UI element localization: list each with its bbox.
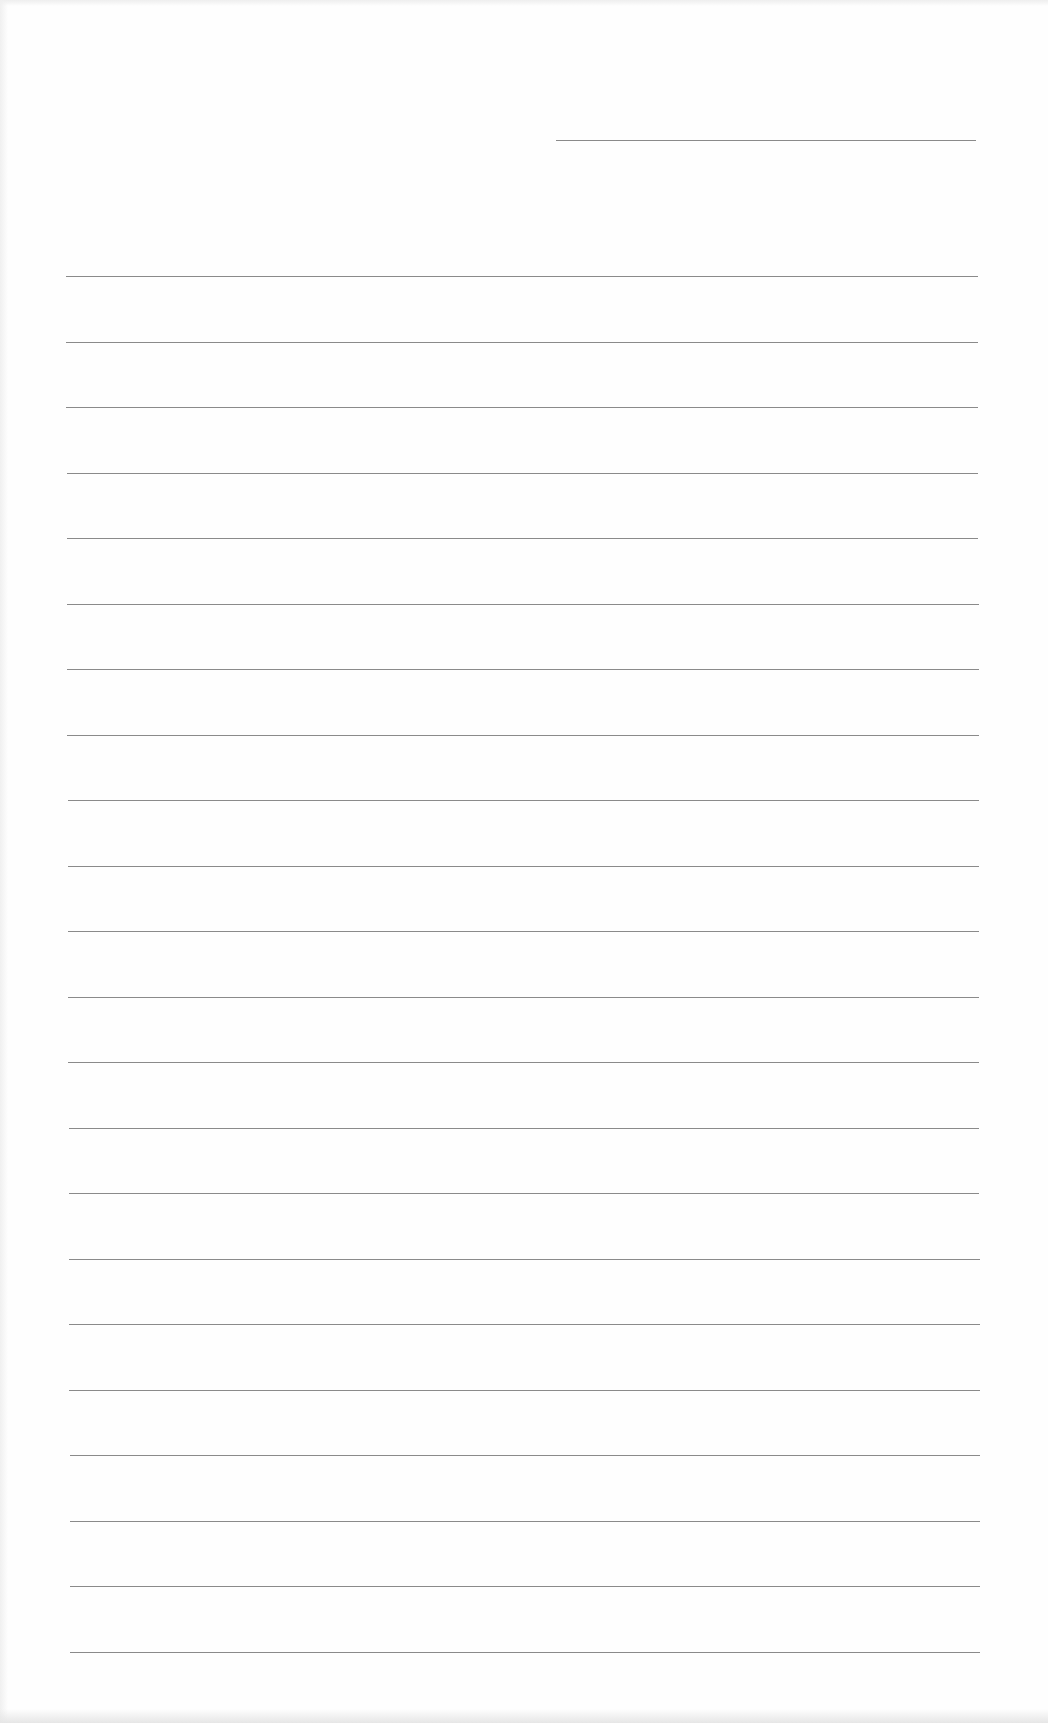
ruled-line [70, 1652, 980, 1653]
ruled-line [67, 473, 978, 474]
ruled-line [68, 866, 979, 867]
ruled-line [66, 407, 978, 408]
ruled-line [68, 997, 979, 998]
paper-left-edge-shadow [0, 0, 8, 1723]
ruled-line [67, 735, 979, 736]
ruled-line [68, 931, 979, 932]
ruled-line [69, 1324, 980, 1325]
ruled-line [70, 1521, 980, 1522]
ruled-line [67, 538, 978, 539]
ruled-line [70, 1586, 980, 1587]
paper-top-edge-shadow [0, 0, 1048, 6]
paper-bottom-edge-shadow [0, 1709, 1048, 1723]
ruled-line [68, 800, 979, 801]
ruled-line [67, 669, 979, 670]
ruled-line [66, 342, 978, 343]
ruled-line [69, 1390, 980, 1391]
ruled-line [69, 1128, 979, 1129]
lined-paper-sheet [0, 0, 1048, 1723]
ruled-line [69, 1259, 980, 1260]
ruled-line [67, 604, 979, 605]
header-name-line [556, 140, 976, 141]
ruled-line [70, 1455, 980, 1456]
ruled-line [68, 1062, 979, 1063]
ruled-line [69, 1193, 979, 1194]
ruled-line [66, 276, 978, 277]
